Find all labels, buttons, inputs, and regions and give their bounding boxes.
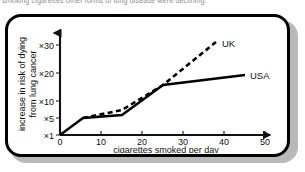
y-tick-label-10: ×10: [39, 97, 54, 107]
y-axis-title-line2: from lung cancer: [28, 50, 38, 117]
caption-strip: smoking cigarettes other forms of lung d…: [0, 0, 305, 9]
x-tick-label-0: 0: [57, 137, 62, 147]
x-tick-label-40: 40: [219, 137, 229, 147]
x-tick-label-10: 10: [96, 137, 106, 147]
series-line-usa: [60, 75, 245, 135]
chart-plot-area: ×1 ×5 ×10 ×20 ×30 0 10 20 30 4: [8, 17, 287, 154]
series-label-uk: UK: [222, 38, 236, 49]
y-tick-label-30: ×30: [39, 41, 54, 51]
x-tick-label-50: 50: [260, 137, 270, 147]
caption-text: smoking cigarettes other forms of lung d…: [2, 0, 207, 5]
figure-box: ×1 ×5 ×10 ×20 ×30 0 10 20 30 4: [5, 14, 290, 157]
y-axis-title-line1: increase in risk of dying: [17, 37, 27, 131]
y-tick-label-1: ×1: [44, 131, 54, 141]
y-axis-tick-labels: ×1 ×5 ×10 ×20 ×30: [39, 41, 54, 141]
line-chart-svg: ×1 ×5 ×10 ×20 ×30 0 10 20 30 4: [8, 17, 286, 153]
x-axis-title: cigarettes smoked per day: [113, 145, 219, 153]
y-tick-label-5: ×5: [44, 114, 54, 124]
series-label-usa: USA: [250, 70, 270, 81]
y-tick-label-20: ×20: [39, 69, 54, 79]
